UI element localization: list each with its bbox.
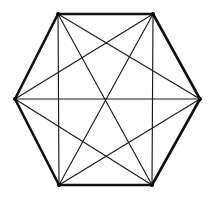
edge-lower-right [152, 99, 200, 185]
chord-edge-group [15, 14, 200, 185]
hexagon-complete-graph-diagram [0, 0, 210, 198]
vertex-bottom-right [150, 183, 154, 187]
chord-right-to-bottom-left [59, 99, 200, 185]
vertex-top-left [56, 12, 60, 16]
edge-lower-left [15, 99, 59, 185]
vertex-right [198, 97, 202, 101]
vertex-bottom-left [57, 183, 61, 187]
figure-canvas [0, 0, 210, 198]
edge-upper-right [153, 14, 200, 99]
vertex-left [13, 97, 17, 101]
vertex-top-right [151, 12, 155, 16]
